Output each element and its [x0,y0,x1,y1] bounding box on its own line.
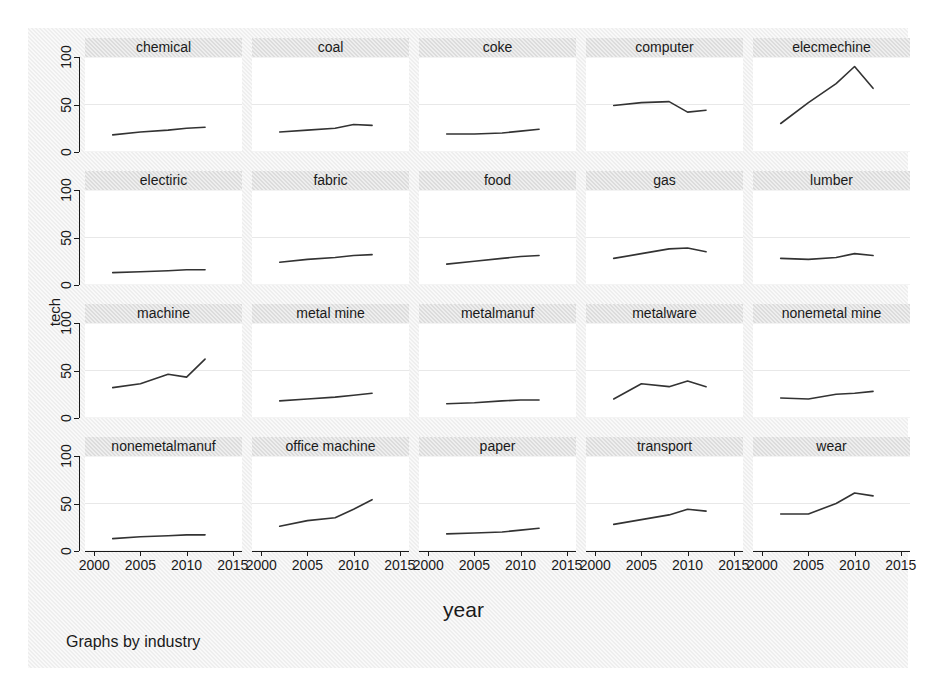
x-tick-label: 2010 [334,557,374,573]
y-tick-label: 0 [58,401,74,435]
x-tick-mark [307,552,308,556]
panel-title: computer [586,38,743,57]
panel-plot-area [85,323,242,418]
panel-metalware: metalware [586,304,743,418]
x-tick-label: 2010 [835,557,875,573]
x-tick-mark [808,552,809,556]
panel-plot-area [85,57,242,152]
x-axis-line [586,551,743,552]
y-axis-line [79,323,80,418]
panel-title: metalware [586,304,743,323]
panel-paper: paper [419,437,576,551]
panel-title: office machine [252,437,409,456]
x-tick-mark [187,552,188,556]
y-tick-label: 50 [58,221,74,255]
panel-food: food [419,171,576,285]
x-tick-mark [688,552,689,556]
panel-title: paper [419,437,576,456]
panel-metalmanuf: metalmanuf [419,304,576,418]
y-tick-mark [74,418,79,419]
x-tick-label: 2005 [287,557,327,573]
y-tick-mark [74,190,79,191]
panel-elecmechine: elecmechine [753,38,910,152]
panel-nonemetal-mine: nonemetal mine [753,304,910,418]
y-tick-label: 0 [58,534,74,568]
x-tick-mark [140,552,141,556]
panel-plot-area [586,456,743,551]
x-tick-mark [567,552,568,556]
panel-plot-area [753,57,910,152]
y-tick-mark [74,105,79,106]
panel-lumber: lumber [753,171,910,285]
panel-plot-area [252,323,409,418]
panel-plot-area [252,190,409,285]
panel-plot-area [419,190,576,285]
x-axis-line [753,551,910,552]
x-tick-mark [762,552,763,556]
panel-plot-area [85,456,242,551]
x-tick-mark [734,552,735,556]
y-tick-label: 100 [58,173,74,207]
panel-coal: coal [252,38,409,152]
panel-office-machine: office machine [252,437,409,551]
panel-chemical: chemical [85,38,242,152]
panel-title: chemical [85,38,242,57]
x-tick-label: 2005 [120,557,160,573]
panel-plot-area [586,323,743,418]
y-tick-mark [74,285,79,286]
x-axis-line [85,551,242,552]
y-tick-mark [74,238,79,239]
y-axis-line [79,456,80,551]
panel-nonemetalmanuf: nonemetalmanuf [85,437,242,551]
panel-plot-area [753,323,910,418]
x-tick-mark [261,552,262,556]
panel-title: lumber [753,171,910,190]
x-tick-mark [855,552,856,556]
x-tick-mark [400,552,401,556]
panel-title: nonemetal mine [753,304,910,323]
y-tick-mark [74,456,79,457]
y-tick-label: 0 [58,135,74,169]
x-tick-mark [521,552,522,556]
y-tick-mark [74,57,79,58]
y-tick-label: 100 [58,40,74,74]
figure-canvas: chemicalcoalcokecomputerelecmechineelect… [0,0,927,695]
panel-plot-area [419,323,576,418]
panel-title: coal [252,38,409,57]
panel-machine: machine [85,304,242,418]
x-tick-mark [595,552,596,556]
panel-plot-area [252,57,409,152]
y-tick-mark [74,551,79,552]
y-tick-label: 50 [58,487,74,521]
x-tick-label: 2005 [788,557,828,573]
panel-gas: gas [586,171,743,285]
panel-wear: wear [753,437,910,551]
panel-title: metalmanuf [419,304,576,323]
x-tick-label: 2000 [241,557,281,573]
panel-electiric: electiric [85,171,242,285]
x-tick-label: 2010 [501,557,541,573]
panel-plot-area [85,190,242,285]
y-tick-mark [74,152,79,153]
panel-coke: coke [419,38,576,152]
panel-transport: transport [586,437,743,551]
y-tick-mark [74,371,79,372]
panel-title: metal mine [252,304,409,323]
panel-plot-area [586,57,743,152]
figure-caption: Graphs by industry [66,633,200,651]
x-tick-mark [641,552,642,556]
panel-plot-area [252,456,409,551]
x-tick-mark [94,552,95,556]
y-tick-label: 50 [58,88,74,122]
panel-title: food [419,171,576,190]
x-tick-label: 2010 [167,557,207,573]
x-tick-label: 2005 [454,557,494,573]
panel-plot-area [586,190,743,285]
panel-metal-mine: metal mine [252,304,409,418]
x-tick-mark [233,552,234,556]
x-tick-mark [474,552,475,556]
panel-title: nonemetalmanuf [85,437,242,456]
panel-plot-area [419,57,576,152]
x-axis-line [419,551,576,552]
y-axis-line [79,57,80,152]
